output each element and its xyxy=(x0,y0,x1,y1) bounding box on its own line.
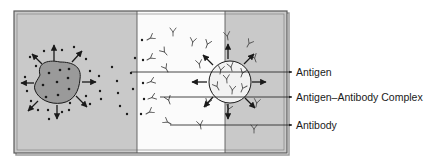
label-antibody: Antibody xyxy=(296,119,337,131)
antigen-source-cell xyxy=(35,61,81,103)
label-antigen-antibody-complex: Antigen–Antibody Complex xyxy=(296,91,423,103)
antigen-antibody-diagram xyxy=(0,0,434,163)
label-antigen: Antigen xyxy=(296,66,332,78)
